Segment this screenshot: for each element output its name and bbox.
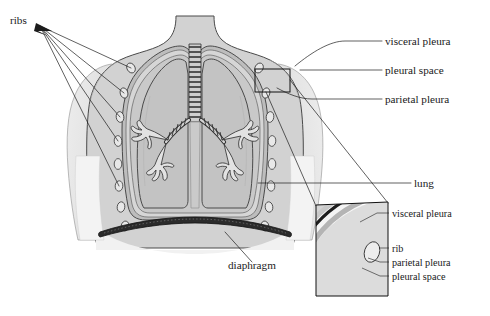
label-inset-parietal-pleura: parietal pleura — [392, 257, 451, 268]
rib-oval — [267, 181, 275, 192]
label-ribs: ribs — [10, 14, 27, 26]
mediastinum-stem — [190, 122, 200, 208]
label-parietal-pleura: parietal pleura — [385, 93, 449, 105]
ribs-arrowhead — [34, 23, 52, 36]
label-inset-rib: rib — [392, 243, 403, 254]
rib-oval — [114, 159, 122, 170]
label-visceral-pleura: visceral pleura — [385, 35, 451, 47]
label-pleural-space: pleural space — [385, 64, 444, 76]
label-inset-pleural-space: pleural space — [392, 271, 446, 282]
pleura-anatomy-diagram: Pleural membranes of the lungs (anterior… — [0, 0, 490, 316]
rib-oval — [268, 159, 276, 170]
label-inset-visceral-pleura: visceral pleura — [392, 208, 452, 219]
figure-page: Pleural membranes of the lungs (anterior… — [0, 0, 490, 316]
rib-oval — [268, 135, 276, 146]
trachea — [189, 44, 201, 122]
trachea-rings — [189, 47, 201, 117]
label-lung: lung — [414, 177, 434, 189]
label-diaphragm: diaphragm — [228, 259, 276, 271]
